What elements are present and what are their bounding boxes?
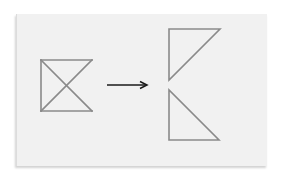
- diagram-canvas: [0, 0, 283, 177]
- upper-triangle: [169, 29, 220, 80]
- lower-triangle: [169, 90, 219, 140]
- arrow-icon: [107, 82, 147, 89]
- source-square-figure: [41, 60, 92, 111]
